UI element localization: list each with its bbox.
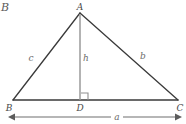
- triangle-outline: [13, 13, 178, 100]
- geometry-figure: A B C D c h b a B: [0, 0, 186, 124]
- side-label-h: h: [83, 53, 89, 63]
- arrowhead-left-icon: [8, 114, 15, 121]
- right-angle-icon: [81, 93, 88, 100]
- vertex-label-d: D: [75, 103, 83, 113]
- triangle-side-ab: [13, 13, 80, 100]
- triangle-side-ac: [80, 13, 178, 100]
- right-angle-marker: [81, 93, 88, 100]
- side-label-c: c: [28, 53, 33, 63]
- triangle-diagram-svg: A B C D c h b a B: [0, 0, 186, 124]
- base-measure-label-a: a: [114, 112, 119, 122]
- corner-mark-letter: B: [0, 1, 9, 14]
- vertex-label-c: C: [177, 103, 184, 113]
- side-label-b: b: [140, 51, 146, 61]
- base-measure-arrow: a: [8, 112, 182, 122]
- vertex-label-b: B: [5, 103, 13, 113]
- arrowhead-right-icon: [175, 114, 182, 121]
- vertex-label-a: A: [76, 2, 84, 12]
